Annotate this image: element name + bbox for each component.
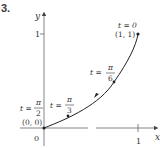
y-tick-label: 1 (35, 30, 40, 39)
y-axis-label: y (34, 11, 41, 21)
label-coord-0-0: (0, 0) (22, 118, 42, 127)
label-t-pi3-num: π (66, 95, 73, 104)
point-t0 (136, 32, 139, 35)
label-t-pi6-den: 6 (108, 74, 113, 83)
label-t-pi2-den: 2 (36, 109, 41, 118)
origin-label: 0 (34, 134, 39, 143)
label-t0: t = 0 (118, 21, 137, 30)
direction-arrow-icon (94, 93, 99, 98)
x-axis-label: x (155, 132, 160, 142)
label-t-pi6-num: π (107, 63, 114, 72)
label-t-pi6-prefix: t = (90, 68, 102, 77)
parametric-plot: y x 1 1 0 t = 0 (1, 1) t = π 6 t = π 3 t… (0, 0, 165, 148)
label-t-pi3-den: 3 (67, 106, 72, 115)
point-t-pi6 (113, 81, 116, 84)
label-t-pi2-num: π (35, 98, 42, 107)
x-tick-label: 1 (136, 137, 141, 146)
label-coord-1-1: (1, 1) (115, 30, 135, 39)
label-t-pi2-prefix: t = (20, 104, 32, 113)
point-t-pi3 (67, 115, 70, 118)
curve (44, 34, 138, 128)
point-t-pi2 (42, 126, 45, 129)
label-t-pi3-prefix: t = (50, 101, 62, 110)
